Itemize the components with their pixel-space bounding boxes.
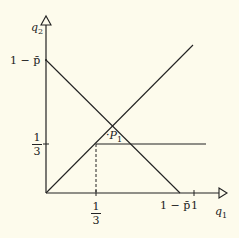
x-tick-label-one-minus-p: 1 − p̄: [160, 200, 190, 211]
x-axis-label: q1: [215, 206, 227, 220]
y-tick-label-third: 13: [32, 132, 42, 157]
diagram: q2 1 − p̄ 13 13 1 − p̄ 1 q1 ·P1: [0, 0, 239, 238]
diagonal-line: [46, 45, 193, 193]
x-axis-arrow: [219, 188, 227, 198]
x-tick-label-one: 1: [191, 200, 198, 211]
y-axis-label: q2: [31, 22, 43, 36]
y-tick-label-top: 1 − p̄: [10, 55, 40, 66]
point-label: ·P1: [106, 130, 122, 144]
x-tick-label-third: 13: [91, 201, 101, 226]
